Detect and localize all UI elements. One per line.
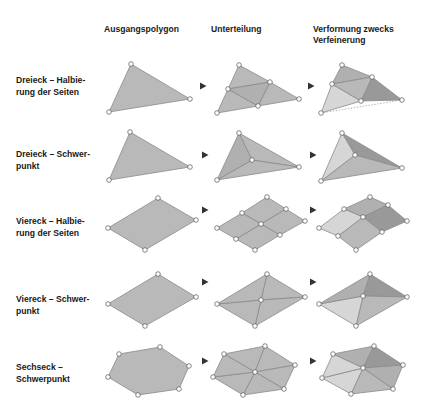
vertex-circle-icon (256, 104, 261, 109)
polygon-figure (319, 63, 405, 116)
vertex-circle-icon (215, 302, 220, 307)
polygon-face (108, 274, 196, 326)
polygon-face (109, 132, 190, 180)
vertex-circle-icon (353, 153, 358, 158)
vertex-circle-icon (372, 344, 377, 349)
vertex-circle-icon (250, 158, 255, 163)
polygon-figure (319, 131, 405, 184)
vertex-circle-icon (340, 131, 345, 136)
vertex-circle-icon (400, 98, 405, 103)
vertex-circle-icon (107, 110, 112, 115)
vertex-circle-icon (187, 364, 192, 369)
vertex-circle-icon (284, 207, 289, 212)
polygon-figure (106, 196, 199, 253)
polygon-figure (215, 63, 302, 116)
polygon-figure (215, 131, 302, 183)
arrow-right-icon (202, 279, 209, 286)
vertex-circle-icon (380, 230, 385, 235)
vertex-circle-icon (253, 324, 258, 329)
arrow-right-icon (202, 358, 209, 365)
vertex-circle-icon (361, 366, 366, 371)
vertex-circle-icon (215, 226, 220, 231)
vertex-circle-icon (253, 248, 258, 253)
vertex-circle-icon (317, 302, 322, 307)
vertex-circle-icon (354, 248, 359, 253)
arrow-right-icon (202, 152, 209, 159)
polygon-face (261, 274, 305, 300)
vertex-circle-icon (342, 207, 347, 212)
arrow-right-icon (308, 83, 315, 90)
polygon-figure (215, 272, 308, 329)
polygon-face (363, 274, 407, 297)
vertex-circle-icon (241, 393, 246, 398)
arrow-right-icon (202, 207, 209, 214)
vertex-circle-icon (349, 392, 354, 397)
vertex-circle-icon (303, 295, 308, 300)
polygon-figure (106, 272, 199, 329)
vertex-circle-icon (143, 248, 148, 253)
vertex-circle-icon (158, 345, 163, 350)
vertex-circle-icon (359, 99, 364, 104)
polygon-figure (107, 62, 193, 115)
polygon-figure (317, 272, 410, 329)
vertex-circle-icon (128, 130, 133, 135)
vertex-circle-icon (336, 234, 341, 239)
vertex-circle-icon (297, 165, 302, 170)
vertex-circle-icon (106, 375, 111, 380)
vertex-circle-icon (211, 375, 216, 380)
polygon-face (108, 198, 196, 250)
polygon-face (356, 296, 407, 326)
vertex-circle-icon (117, 352, 122, 357)
vertex-circle-icon (222, 352, 227, 357)
vertex-circle-icon (263, 344, 268, 349)
arrow-right-icon (310, 358, 317, 365)
vertex-circle-icon (297, 97, 302, 102)
polygon-face (109, 64, 190, 112)
vertex-circle-icon (156, 272, 161, 277)
vertex-circle-icon (391, 387, 396, 392)
vertex-circle-icon (405, 219, 410, 224)
vertex-circle-icon (215, 178, 220, 183)
vertex-circle-icon (143, 324, 148, 329)
vertex-circle-icon (259, 298, 264, 303)
vertex-circle-icon (194, 295, 199, 300)
vertex-circle-icon (368, 272, 373, 277)
vertex-circle-icon (194, 218, 199, 223)
vertex-circle-icon (237, 131, 242, 136)
vertex-circle-icon (259, 222, 264, 227)
vertex-circle-icon (282, 387, 287, 392)
polygon-figure (215, 195, 308, 253)
vertex-circle-icon (129, 62, 134, 67)
vertex-circle-icon (268, 80, 273, 85)
vertex-circle-icon (234, 237, 239, 242)
polygon-figure (317, 195, 410, 253)
vertex-circle-icon (107, 178, 112, 183)
vertex-circle-icon (293, 363, 298, 368)
vertex-circle-icon (265, 195, 270, 200)
vertex-circle-icon (177, 387, 182, 392)
vertex-circle-icon (215, 111, 220, 116)
vertex-circle-icon (278, 233, 283, 238)
vertex-circle-icon (106, 302, 111, 307)
vertex-circle-icon (368, 195, 373, 200)
arrow-right-icon (310, 152, 317, 159)
polygon-figure (320, 344, 406, 397)
vertex-circle-icon (361, 215, 366, 220)
vertex-circle-icon (317, 226, 322, 231)
vertex-circle-icon (156, 196, 161, 201)
arrow-right-icon (310, 279, 317, 286)
vertex-circle-icon (370, 75, 375, 80)
arrow-right-icon (310, 207, 317, 214)
vertex-circle-icon (405, 295, 410, 300)
vertex-circle-icon (331, 352, 336, 357)
vertex-circle-icon (188, 165, 193, 170)
polygon-figure (211, 344, 298, 398)
vertex-circle-icon (340, 63, 345, 68)
vertex-circle-icon (226, 87, 231, 92)
vertex-circle-icon (265, 272, 270, 277)
arrow-right-icon (200, 83, 207, 90)
vertex-circle-icon (237, 63, 242, 68)
vertex-circle-icon (188, 97, 193, 102)
vertex-circle-icon (319, 179, 324, 184)
vertex-circle-icon (319, 111, 324, 116)
